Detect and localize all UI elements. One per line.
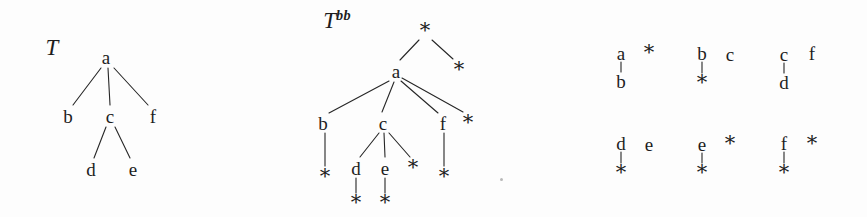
tree-edge (329, 81, 389, 113)
tree-edge (400, 40, 419, 60)
tree-node-a: a (392, 62, 400, 81)
figure-canvas: TTbb abcfde*a*bcf**de****a*bbc*cfdde*e**… (0, 0, 867, 217)
tree-node-e: e (381, 159, 389, 178)
tree-edge (401, 81, 438, 113)
tree-node-f: f (809, 44, 815, 63)
tree-node-star: * (408, 157, 419, 178)
tree-node-star: * (616, 162, 627, 183)
tree-node-c: c (106, 107, 114, 126)
tree-name-superscript: bb (336, 7, 351, 23)
tree-node-star: * (697, 72, 708, 93)
tree-node-star: * (351, 192, 362, 213)
tree-node-e: e (698, 135, 706, 154)
tree-edge (73, 68, 101, 105)
tree-node-d: d (86, 160, 96, 179)
scan-speck (500, 178, 503, 181)
tree-edge (94, 127, 106, 158)
tree-edge (360, 133, 379, 157)
tree-edge (115, 127, 130, 158)
tree-node-c: c (780, 45, 788, 64)
tree-node-f: f (440, 114, 446, 133)
tree-edge (114, 68, 148, 105)
tree-node-star: * (697, 162, 708, 183)
tree-edge (108, 68, 110, 105)
tree-node-star: * (644, 42, 655, 63)
tree-node-a: a (617, 44, 625, 63)
tree-node-star: * (320, 166, 331, 187)
tree-edge-layer (0, 0, 867, 217)
tree-edge (384, 133, 385, 157)
tree-node-b: b (63, 107, 73, 126)
tree-node-d: d (616, 134, 626, 153)
tree-node-star: * (725, 133, 736, 154)
tree-node-star: * (807, 133, 818, 154)
tree-node-d: d (779, 73, 789, 92)
tree-node-star: * (420, 20, 431, 41)
tree-node-c: c (726, 45, 734, 64)
tree-node-f: f (781, 134, 787, 153)
tree-node-star: * (454, 59, 465, 80)
tree-node-b: b (318, 114, 328, 133)
tree-node-b: b (697, 44, 707, 63)
tree-node-d: d (351, 159, 361, 178)
tree-name-label: Tbb (323, 8, 350, 33)
tree-node-f: f (150, 107, 156, 126)
tree-edge (389, 133, 410, 157)
tree-edge (432, 40, 453, 59)
tree-name-label: T (46, 36, 59, 59)
tree-node-c: c (379, 114, 387, 133)
tree-node-star: * (463, 112, 474, 133)
tree-edge (382, 82, 394, 112)
tree-node-a: a (102, 48, 110, 67)
tree-node-star: * (439, 166, 450, 187)
tree-node-b: b (616, 72, 626, 91)
tree-edge (402, 78, 463, 112)
tree-node-star: * (779, 162, 790, 183)
tree-node-star: * (380, 192, 391, 213)
tree-node-e: e (129, 160, 137, 179)
tree-node-e: e (645, 135, 653, 154)
